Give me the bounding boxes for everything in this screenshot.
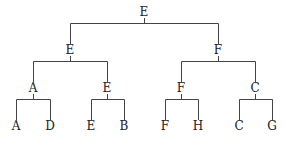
node-leaf: H bbox=[193, 120, 203, 132]
node-level2-right: F bbox=[214, 44, 222, 56]
node-level3: E bbox=[103, 82, 112, 94]
node-leaf: F bbox=[161, 120, 169, 132]
node-level3: C bbox=[250, 82, 259, 94]
node-leaf: C bbox=[234, 120, 243, 132]
node-level3: A bbox=[29, 82, 38, 94]
node-level2-left: E bbox=[66, 44, 75, 56]
node-leaf: A bbox=[12, 120, 21, 132]
node-leaf: B bbox=[120, 120, 129, 132]
node-leaf: D bbox=[45, 120, 55, 132]
node-root: E bbox=[140, 6, 149, 18]
node-leaf: E bbox=[87, 120, 96, 132]
node-leaf: G bbox=[267, 120, 277, 132]
node-level3: F bbox=[177, 82, 185, 94]
tree-edges bbox=[0, 0, 287, 141]
